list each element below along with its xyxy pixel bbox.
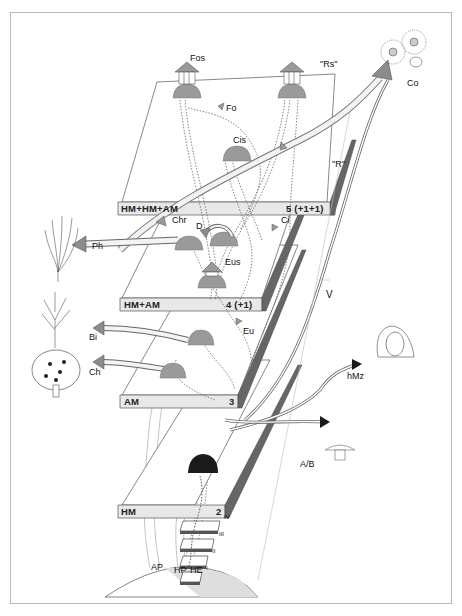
label-bi: Bi [89,333,97,342]
label-v: V [326,290,333,300]
label-hp: HP [174,566,187,575]
label-fos: Fos [190,54,205,63]
label-ci: Ci [281,216,290,225]
label-he: HE [190,566,203,575]
label-r: "R" [332,160,345,169]
label-ch: Ch [89,368,101,377]
label-eus: Eus [225,258,241,267]
human-face-icon [377,326,414,357]
plate-3-label: AM [124,397,139,407]
label-chr: Chr [172,216,187,225]
plate-2-level: 2 [216,507,221,517]
mushroom-icon [325,445,355,460]
bare-tree-icon [42,292,70,348]
plate-4-level: 4 (+1) [226,300,252,310]
label-ap: AP [151,563,163,572]
label-cis: Cis [233,136,246,145]
plate-5-level: 5 (+1+1) [286,204,324,214]
step-iii: III [219,531,224,537]
step-iv: IV [224,514,230,520]
plate-2-label: HM [121,507,136,517]
label-ph: Ph [92,242,103,251]
label-rs: "Rs" [320,60,337,69]
label-hmz: hMz [347,372,364,381]
leafy-tree-icon [32,350,80,397]
seaweed-icon [45,216,78,282]
label-d: D [196,222,203,231]
plate-5-label: HM+HM+AM [121,204,178,214]
label-eu: Eu [243,327,254,336]
label-ab: A/B [300,460,315,469]
label-co: Co [407,79,419,88]
label-fo: Fo [226,104,237,113]
step-ii: II [212,548,215,554]
step-i: I [206,565,208,571]
plate-4-label: HM+AM [124,300,160,310]
plate-3-level: 3 [229,397,234,407]
